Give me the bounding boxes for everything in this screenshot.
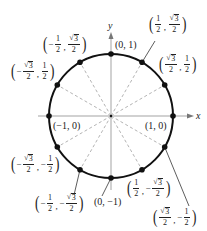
x-axis-label: x [196, 110, 200, 121]
label-point-0: (1, 0) [145, 121, 167, 131]
point-180 [46, 113, 52, 119]
label-point-60: ( 12 , √32 ) [148, 14, 187, 34]
label-point-240: (− 12 ,− √32 ) [34, 193, 84, 213]
label-point-90: (0, 1) [115, 40, 137, 50]
point-210 [55, 144, 61, 150]
x-axis-arrow-icon [187, 114, 194, 119]
point-0 [170, 113, 176, 119]
point-150 [55, 82, 61, 88]
point-330 [162, 144, 168, 150]
point-60 [139, 60, 145, 66]
point-240 [77, 167, 83, 173]
point-120 [77, 60, 83, 66]
point-90 [108, 51, 114, 57]
y-axis-label: y [108, 20, 112, 31]
point-300 [139, 167, 145, 173]
label-point-300: ( 12 ,− √32 ) [126, 178, 171, 198]
point-30 [162, 82, 168, 88]
label-point-30: ( √32 , 12 ) [158, 54, 197, 74]
label-point-270: (0, −1) [94, 197, 121, 207]
y-axis-arrow-icon [109, 32, 114, 39]
label-point-210: (− √32 ,− 12 ) [10, 154, 60, 174]
point-270 [108, 175, 114, 181]
label-point-120: (− 12 , √32 ) [42, 34, 87, 54]
origin-point [110, 115, 112, 117]
label-point-180: (−1, 0) [53, 121, 80, 131]
label-point-150: (− √32 , 12 ) [10, 61, 55, 81]
label-point-330: ( √32 ,− 12 ) [152, 207, 197, 227]
